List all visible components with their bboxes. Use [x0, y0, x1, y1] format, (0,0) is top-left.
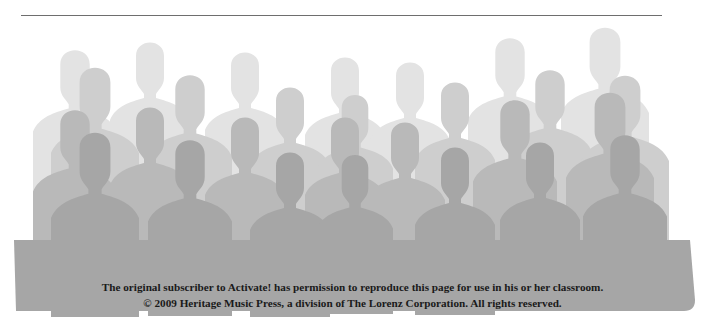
- crowd-silhouette-illustration: [0, 0, 705, 317]
- permission-notice: The original subscriber to Activate! has…: [0, 279, 705, 295]
- copyright-notice: © 2009 Heritage Music Press, a division …: [0, 295, 705, 311]
